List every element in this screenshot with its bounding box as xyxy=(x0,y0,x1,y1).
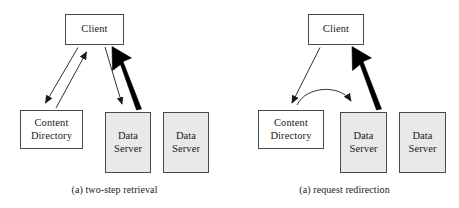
node-data-server-2-label-line2: Server xyxy=(172,143,200,154)
node-client[interactable]: Client xyxy=(308,14,364,45)
node-data-server-2-label: Data Server xyxy=(170,130,202,155)
node-data-server-2[interactable]: Data Server xyxy=(163,112,209,173)
node-data-server-1-label: Data Server xyxy=(347,130,379,155)
node-content-directory-label: Content Directory xyxy=(29,117,74,142)
node-content-directory-label-line1: Content xyxy=(274,117,308,128)
node-content-directory[interactable]: Content Directory xyxy=(20,110,83,149)
node-data-server-2[interactable]: Data Server xyxy=(399,112,446,173)
panel-request-redirection: Client Content Directory Data Server Dat… xyxy=(230,0,459,208)
figure-container: Client Content Directory Data Server Dat… xyxy=(0,0,459,208)
edge-directory-redirect-to-data-server xyxy=(297,89,351,105)
node-content-directory[interactable]: Content Directory xyxy=(258,110,324,149)
node-data-server-1[interactable]: Data Server xyxy=(340,112,387,173)
node-data-server-1[interactable]: Data Server xyxy=(105,112,151,173)
node-content-directory-label: Content Directory xyxy=(268,117,313,142)
edge-client-to-directory xyxy=(46,48,79,104)
node-data-server-1-label-line1: Data xyxy=(353,130,373,141)
node-data-server-1-label: Data Server xyxy=(112,130,144,155)
node-content-directory-label-line2: Directory xyxy=(270,130,311,141)
node-data-server-2-label-line2: Server xyxy=(408,143,436,154)
caption-two-step-retrieval: (a) two-step retrieval xyxy=(0,184,229,195)
node-client[interactable]: Client xyxy=(65,14,124,45)
node-data-server-1-label-line2: Server xyxy=(114,143,142,154)
node-data-server-2-label: Data Server xyxy=(406,130,438,155)
node-data-server-1-label-line2: Server xyxy=(349,143,377,154)
node-data-server-2-label-line1: Data xyxy=(176,130,196,141)
node-client-label: Client xyxy=(79,23,109,35)
edge-directory-to-client xyxy=(56,52,87,108)
node-content-directory-label-line1: Content xyxy=(35,117,69,128)
node-data-server-1-label-line1: Data xyxy=(118,130,138,141)
node-content-directory-label-line2: Directory xyxy=(31,130,72,141)
node-client-label: Client xyxy=(321,23,351,35)
caption-request-redirection: (a) request redirection xyxy=(230,184,459,195)
edge-data-server-to-client xyxy=(112,47,142,111)
edge-data-server-to-client xyxy=(352,47,382,111)
node-data-server-2-label-line1: Data xyxy=(412,130,432,141)
panel-two-step-retrieval: Client Content Directory Data Server Dat… xyxy=(0,0,229,208)
